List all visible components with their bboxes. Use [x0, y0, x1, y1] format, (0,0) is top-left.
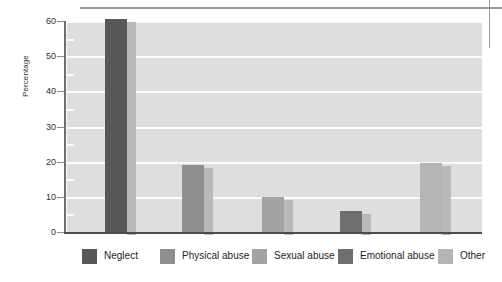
- y-axis-tick-label: 40: [46, 87, 56, 96]
- y-axis-minor-tick: [67, 74, 74, 76]
- y-axis-minor-tick: [67, 179, 74, 181]
- y-axis-tick-labels: 0102030405060: [0, 21, 56, 234]
- y-axis-line: [64, 21, 66, 234]
- legend-item-physical-abuse[interactable]: Physical abuse: [160, 248, 249, 264]
- bar-fill: [420, 163, 442, 232]
- y-axis-tick-label: 30: [46, 123, 56, 132]
- legend-label: Emotional abuse: [360, 251, 435, 261]
- legend-label: Physical abuse: [182, 251, 249, 261]
- y-axis-tick: [57, 197, 64, 198]
- y-axis-tick: [57, 91, 64, 92]
- y-axis-tick: [57, 127, 64, 128]
- y-axis-tick-label: 50: [46, 52, 56, 61]
- legend-item-other[interactable]: Other: [438, 248, 485, 264]
- legend-label: Other: [460, 251, 485, 261]
- y-axis-tick-label: 20: [46, 158, 56, 167]
- chart-plot-area: [64, 21, 482, 234]
- bar-shadow: [127, 22, 136, 235]
- bar-emotional-abuse: [340, 208, 371, 232]
- legend-item-neglect[interactable]: Neglect: [82, 248, 138, 264]
- legend-item-sexual-abuse[interactable]: Sexual abuse: [252, 248, 335, 264]
- legend-swatch: [82, 249, 97, 264]
- legend-swatch: [252, 249, 267, 264]
- y-axis-tick: [57, 162, 64, 163]
- y-axis-tick: [57, 21, 64, 22]
- bar-other: [420, 160, 451, 232]
- y-axis-minor-tick: [67, 39, 74, 41]
- legend-label: Neglect: [104, 251, 138, 261]
- legend-swatch: [338, 249, 353, 264]
- bar-physical-abuse: [182, 162, 213, 232]
- bar-fill: [340, 211, 362, 232]
- y-axis-minor-tick: [67, 109, 74, 111]
- bar-shadow: [442, 166, 451, 235]
- y-axis-tick-label: 60: [46, 17, 56, 26]
- x-axis-line: [64, 232, 482, 234]
- bar-fill: [105, 19, 127, 232]
- bar-fill: [262, 197, 284, 232]
- bar-neglect: [105, 16, 136, 232]
- y-axis-tick-label: 0: [51, 228, 56, 237]
- bar-sexual-abuse: [262, 194, 293, 232]
- bar-shadow: [284, 200, 293, 235]
- y-axis-tick: [57, 56, 64, 57]
- chart-legend: NeglectPhysical abuseSexual abuseEmotion…: [0, 248, 502, 270]
- top-horizontal-rule: [80, 7, 502, 9]
- legend-swatch: [438, 249, 453, 264]
- y-axis-minor-tick: [67, 214, 74, 216]
- legend-item-emotional-abuse[interactable]: Emotional abuse: [338, 248, 435, 264]
- bar-shadow: [204, 168, 213, 235]
- legend-label: Sexual abuse: [274, 251, 335, 261]
- right-vertical-rule: [489, 0, 490, 48]
- y-axis-tick-label: 10: [46, 193, 56, 202]
- legend-swatch: [160, 249, 175, 264]
- bar-fill: [182, 165, 204, 232]
- y-axis-tick: [57, 232, 64, 233]
- y-axis-minor-tick: [67, 144, 74, 146]
